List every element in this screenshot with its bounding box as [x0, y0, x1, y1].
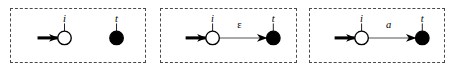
panel-symbol-transition-fragment: i t a: [309, 8, 445, 63]
initial-state-label: i: [360, 13, 363, 24]
initial-state-node: [355, 31, 368, 44]
edge-label-epsilon: ε: [237, 19, 242, 30]
panel-epsilon-transition-fragment: i t ε: [160, 8, 297, 63]
panel-2-canvas: i t ε: [161, 9, 296, 62]
final-state-label: t: [272, 13, 276, 24]
automaton-figure: i t i t ε: [0, 0, 457, 73]
initial-state-node: [58, 31, 71, 44]
final-state-label: t: [421, 13, 425, 24]
initial-state-label: i: [63, 13, 66, 24]
initial-state-label: i: [211, 13, 214, 24]
edge-label-symbol: a: [386, 19, 391, 30]
final-state-node: [110, 31, 123, 44]
final-state-node: [267, 31, 280, 44]
panel-1-canvas: i t: [11, 9, 145, 62]
final-state-node: [416, 31, 429, 44]
panel-3-canvas: i t a: [310, 9, 444, 62]
final-state-label: t: [115, 13, 119, 24]
panel-empty-language-fragment: i t: [10, 8, 146, 63]
initial-state-node: [206, 31, 219, 44]
